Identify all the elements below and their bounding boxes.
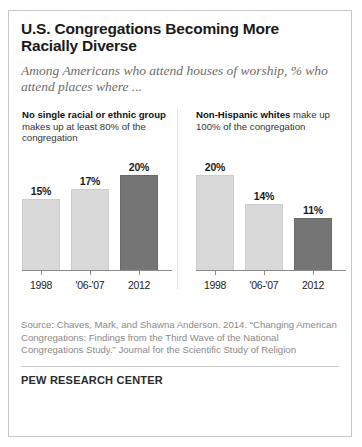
bar-value-label: 14% bbox=[254, 190, 274, 202]
bar-slot: 15% bbox=[22, 153, 60, 271]
bar-value-label: 11% bbox=[303, 204, 323, 216]
axis-tick bbox=[71, 271, 109, 275]
panel-left-heading-lead: No single racial or ethnic group bbox=[22, 109, 166, 120]
plot-area-right: 20% 14% 11% bbox=[196, 151, 350, 271]
bar-group-right: 20% 14% 11% bbox=[196, 153, 342, 271]
x-axis-label: 2012 bbox=[294, 279, 332, 291]
bar bbox=[245, 204, 283, 271]
bar bbox=[22, 199, 60, 271]
chart-subtitle: Among Americans who attend houses of wor… bbox=[21, 63, 339, 95]
panel-right-heading-lead: Non-Hispanic whites bbox=[196, 109, 290, 120]
panel-left-heading: No single racial or ethnic group makes u… bbox=[22, 109, 176, 149]
x-axis-labels-left: 1998 '06-'07 2012 bbox=[22, 279, 168, 291]
x-axis-label: 2012 bbox=[120, 279, 158, 291]
bar bbox=[71, 189, 109, 271]
x-axis-label: 1998 bbox=[196, 279, 234, 291]
panel-right-heading: Non-Hispanic whites make up 100% of the … bbox=[196, 109, 350, 149]
chart-panel-right: Non-Hispanic whites make up 100% of the … bbox=[187, 109, 350, 291]
x-axis-labels-right: 1998 '06-'07 2012 bbox=[196, 279, 342, 291]
bar-slot: 20% bbox=[120, 153, 158, 271]
footer-brand: PEW RESEARCH CENTER bbox=[21, 374, 339, 386]
panel-left-heading-rest: makes up at least 80% of the congregatio… bbox=[22, 121, 146, 144]
bar-slot: 20% bbox=[196, 153, 234, 271]
bar-value-label: 20% bbox=[205, 161, 225, 173]
x-axis-label: '06-'07 bbox=[71, 279, 109, 291]
bar-slot: 14% bbox=[245, 153, 283, 271]
axis-tick bbox=[245, 271, 283, 275]
charts-container: No single racial or ethnic group makes u… bbox=[9, 109, 351, 309]
bar-value-label: 17% bbox=[80, 175, 100, 187]
footer-divider bbox=[21, 366, 339, 367]
bar bbox=[196, 175, 234, 271]
bar-value-label: 20% bbox=[129, 161, 149, 173]
axis-tick bbox=[294, 271, 332, 275]
panel-divider bbox=[177, 109, 178, 289]
x-axis-ticks bbox=[196, 271, 342, 275]
bar-highlighted bbox=[120, 175, 158, 271]
x-axis-label: '06-'07 bbox=[245, 279, 283, 291]
x-axis-label: 1998 bbox=[22, 279, 60, 291]
bar-slot: 17% bbox=[71, 153, 109, 271]
bar-group-left: 15% 17% 20% bbox=[22, 153, 168, 271]
bar-highlighted bbox=[294, 218, 332, 271]
chart-title: U.S. Congregations Becoming More Raciall… bbox=[21, 20, 339, 54]
plot-area-left: 15% 17% 20% bbox=[22, 151, 176, 271]
axis-tick bbox=[22, 271, 60, 275]
x-axis-ticks bbox=[22, 271, 168, 275]
axis-tick bbox=[196, 271, 234, 275]
chart-panel-left: No single racial or ethnic group makes u… bbox=[13, 109, 176, 291]
axis-tick bbox=[120, 271, 158, 275]
bar-value-label: 15% bbox=[31, 185, 51, 197]
bar-slot: 11% bbox=[294, 153, 332, 271]
infographic-card: U.S. Congregations Becoming More Raciall… bbox=[8, 10, 352, 437]
source-note: Source: Chaves, Mark, and Shawna Anderso… bbox=[21, 319, 339, 357]
